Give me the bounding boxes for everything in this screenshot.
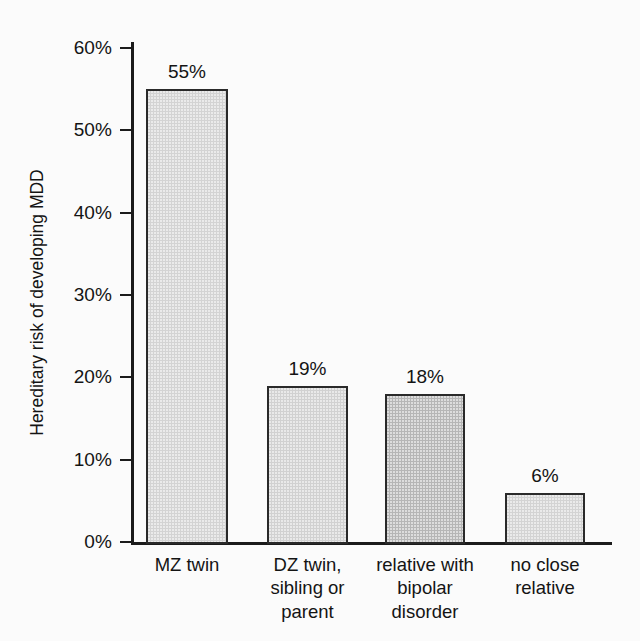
bar-value-label: 19%: [248, 359, 368, 378]
bar-value-label: 18%: [365, 367, 485, 386]
y-tick-mark: [120, 129, 131, 131]
x-category-label: MZ twin: [117, 553, 257, 576]
y-tick-label: 30%: [0, 285, 112, 304]
y-tick-mark: [120, 376, 131, 378]
x-category-label-line: MZ twin: [117, 553, 257, 576]
bar: [267, 386, 348, 544]
y-tick-label: 10%: [0, 450, 112, 469]
y-tick-mark: [120, 47, 131, 49]
x-category-label-line: relative with: [355, 553, 495, 576]
y-tick-label: 60%: [0, 38, 112, 57]
x-category-label-line: no close: [475, 553, 615, 576]
bar: [505, 493, 585, 544]
y-tick-mark: [120, 541, 131, 543]
x-category-label: relative withbipolardisorder: [355, 553, 495, 623]
y-tick-mark: [120, 294, 131, 296]
bar-chart: Hereditary risk of developing MDD 60%50%…: [0, 0, 640, 641]
x-category-label: no closerelative: [475, 553, 615, 600]
y-tick-mark: [120, 212, 131, 214]
bar-value-label: 6%: [485, 466, 605, 485]
y-tick-label: 50%: [0, 120, 112, 139]
plot-area: Hereditary risk of developing MDD 60%50%…: [0, 0, 640, 641]
x-category-label-line: relative: [475, 576, 615, 599]
y-tick-label: 40%: [0, 203, 112, 222]
bar: [146, 89, 228, 544]
y-tick-label: 20%: [0, 367, 112, 386]
x-category-label-line: disorder: [355, 600, 495, 623]
bar-value-label: 55%: [127, 62, 247, 81]
x-category-label-line: bipolar: [355, 576, 495, 599]
bar: [385, 394, 465, 544]
y-axis-line: [131, 42, 134, 545]
y-tick-mark: [120, 459, 131, 461]
y-tick-label: 0%: [0, 532, 112, 551]
